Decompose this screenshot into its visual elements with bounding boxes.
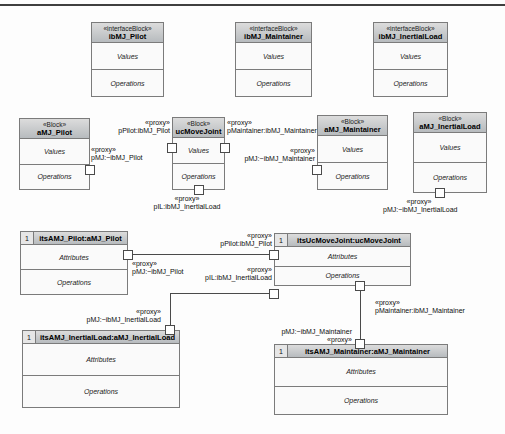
attributes-compartment: Attributes — [23, 344, 179, 376]
proxy-port-aMJ_Pilot-pMJ[interactable] — [85, 165, 95, 175]
block-stereotype: «Block» — [414, 115, 486, 122]
port-label-itsAMJ_InertialLoad-pMJ[interactable]: «proxy» pMJ:~ibMJ_InertialLoad — [80, 308, 161, 323]
block-header: «Block» aMJ_InertialLoad — [414, 113, 486, 133]
port-label-ucMoveJoint-pMaintainer[interactable]: «proxy» pMaintainer:ibMJ_Maintainer — [227, 119, 317, 134]
proxy-port-itsAMJ_InertialLoad-pMJ[interactable] — [165, 325, 175, 335]
operations-compartment: Operations — [275, 387, 447, 415]
connector-inertialload-horizontal[interactable] — [170, 293, 270, 294]
connector-inertialload-vertical[interactable] — [170, 293, 171, 326]
block-header: «Block» aMJ_Maintainer — [318, 116, 387, 136]
proxy-port-ucMoveJoint-pMaintainer[interactable] — [220, 143, 230, 153]
interface-block-ibMJ_Maintainer[interactable]: «interfaceBlock» ibMJ_Maintainer Values … — [235, 22, 312, 97]
operations-compartment: Operations — [414, 163, 486, 192]
instance-name: itsAMJ_Pilot:aMJ_Pilot — [34, 232, 127, 244]
instance-itsUcMoveJoint[interactable]: 1 itsUcMoveJoint:ucMoveJoint Attributes … — [274, 233, 411, 286]
block-name: aMJ_Pilot — [20, 128, 89, 137]
values-compartment: Values — [414, 133, 486, 163]
block-name: ucMoveJoint — [173, 127, 224, 136]
multiplicity-badge: 1 — [21, 232, 34, 244]
block-header: «interfaceBlock» ibMJ_Pilot — [92, 23, 163, 43]
port-label-aMJ_Maintainer-pMJ[interactable]: «proxy» pMJ:~ibMJ_Maintainer — [235, 147, 315, 162]
multiplicity-badge: 1 — [275, 345, 288, 357]
block-stereotype: «interfaceBlock» — [236, 25, 311, 32]
block-header: «interfaceBlock» ibMJ_InertialLoad — [374, 23, 447, 43]
instance-name: itsUcMoveJoint:ucMoveJoint — [288, 234, 410, 246]
block-name: aMJ_Maintainer — [318, 125, 387, 134]
instance-title-bar: 1 itsAMJ_Pilot:aMJ_Pilot — [21, 232, 127, 245]
proxy-port-itsAMJ_Pilot-pMJ[interactable] — [123, 250, 133, 260]
proxy-port-aMJ_InertialLoad-pMJ[interactable] — [435, 188, 445, 198]
instance-itsAMJ_Pilot[interactable]: 1 itsAMJ_Pilot:aMJ_Pilot Attributes Oper… — [20, 231, 128, 295]
block-name: ibMJ_InertialLoad — [374, 32, 447, 41]
port-label-aMJ_Pilot-pMJ[interactable]: «proxy» pMJ:~ibMJ_Pilot — [91, 146, 143, 161]
block-stereotype: «Block» — [20, 121, 89, 128]
proxy-port-itsUcMoveJoint-pPilot[interactable] — [269, 250, 279, 260]
values-compartment: Values — [173, 138, 224, 164]
attributes-compartment: Attributes — [21, 245, 127, 270]
port-label-itsAMJ_Maintainer-pMJ[interactable]: pMJ:~ibMJ_Maintainer «proxy» — [275, 328, 352, 343]
block-stereotype: «Block» — [318, 118, 387, 125]
block-aMJ_Pilot[interactable]: «Block» aMJ_Pilot Values Operations — [19, 118, 90, 190]
block-header: «Block» ucMoveJoint — [173, 118, 224, 138]
instance-name: itsAMJ_InertialLoad:aMJ_InertialLoad — [36, 331, 179, 343]
instance-itsAMJ_InertialLoad[interactable]: 1 itsAMJ_InertialLoad:aMJ_InertialLoad A… — [22, 330, 180, 408]
operations-compartment: Operations — [20, 165, 89, 190]
operations-compartment: Operations — [318, 163, 387, 189]
values-compartment: Values — [318, 136, 387, 163]
port-label-aMJ_InertialLoad-pMJ[interactable]: «proxy» pMJ:~ibMJ_InertialLoad — [383, 198, 455, 213]
diagram-top-rule — [0, 4, 505, 6]
operations-compartment: Operations — [23, 376, 179, 407]
operations-compartment: Operations — [374, 70, 447, 96]
operations-compartment: Operations — [275, 267, 410, 286]
proxy-port-aMJ_Maintainer-pMJ[interactable] — [312, 165, 322, 175]
port-label-itsUcMoveJoint-pPilot[interactable]: «proxy» pPilot:ibMJ_Pilot — [200, 232, 272, 247]
multiplicity-badge: 1 — [23, 331, 36, 343]
values-compartment: Values — [92, 43, 163, 70]
operations-compartment: Operations — [236, 70, 311, 96]
instance-title-bar: 1 itsAMJ_InertialLoad:aMJ_InertialLoad — [23, 331, 179, 344]
interface-block-ibMJ_Pilot[interactable]: «interfaceBlock» ibMJ_Pilot Values Opera… — [91, 22, 164, 97]
operations-compartment: Operations — [21, 270, 127, 294]
block-name: aMJ_InertialLoad — [414, 122, 486, 131]
instance-name: itsAMJ_Maintainer:aMJ_Maintainer — [288, 345, 447, 357]
multiplicity-badge: 1 — [275, 234, 288, 246]
block-stereotype: «interfaceBlock» — [374, 25, 447, 32]
block-name: ibMJ_Maintainer — [236, 32, 311, 41]
connector-maintainer-vertical[interactable] — [360, 290, 361, 340]
proxy-port-itsUcMoveJoint-pIL[interactable] — [269, 289, 279, 299]
connector-pilot-to-ucmovejoint[interactable] — [131, 254, 270, 255]
block-stereotype: «Block» — [173, 120, 224, 127]
block-ucMoveJoint[interactable]: «Block» ucMoveJoint Values Operations — [172, 117, 225, 190]
attributes-compartment: Attributes — [275, 358, 447, 387]
operations-compartment: Operations — [92, 70, 163, 96]
port-label-ucMoveJoint-pIL[interactable]: «proxy» pIL:ibMJ_InertialLoad — [150, 195, 224, 210]
port-label-itsUcMoveJoint-pIL[interactable]: «proxy» pIL:ibMJ_InertialLoad — [195, 266, 272, 281]
attributes-compartment: Attributes — [275, 247, 410, 267]
block-aMJ_InertialLoad[interactable]: «Block» aMJ_InertialLoad Values Operatio… — [413, 112, 487, 193]
proxy-port-ucMoveJoint-pPilot[interactable] — [167, 143, 177, 153]
values-compartment: Values — [20, 139, 89, 165]
block-name: ibMJ_Pilot — [92, 32, 163, 41]
instance-itsAMJ_Maintainer[interactable]: 1 itsAMJ_Maintainer:aMJ_Maintainer Attri… — [274, 344, 448, 415]
values-compartment: Values — [374, 43, 447, 70]
block-header: «Block» aMJ_Pilot — [20, 119, 89, 139]
proxy-port-itsAMJ_Maintainer-pMJ[interactable] — [355, 339, 365, 349]
block-stereotype: «interfaceBlock» — [92, 25, 163, 32]
block-header: «interfaceBlock» ibMJ_Maintainer — [236, 23, 311, 43]
port-label-itsUcMoveJoint-pMaintainer[interactable]: «proxy» pMaintainer:ibMJ_Maintainer — [375, 299, 465, 314]
bdd-diagram-canvas[interactable]: «interfaceBlock» ibMJ_Pilot Values Opera… — [0, 0, 505, 434]
values-compartment: Values — [236, 43, 311, 70]
proxy-port-itsUcMoveJoint-pMaintainer[interactable] — [355, 281, 365, 291]
interface-block-ibMJ_InertialLoad[interactable]: «interfaceBlock» ibMJ_InertialLoad Value… — [373, 22, 448, 97]
port-label-ucMoveJoint-pPilot[interactable]: «proxy» pPilot:ibMJ_Pilot — [100, 119, 170, 134]
block-aMJ_Maintainer[interactable]: «Block» aMJ_Maintainer Values Operations — [317, 115, 388, 190]
port-label-itsAMJ_Pilot-pMJ[interactable]: «proxy» pMJ:~ibMJ_Pilot — [132, 260, 184, 275]
proxy-port-ucMoveJoint-pIL[interactable] — [194, 185, 204, 195]
instance-title-bar: 1 itsUcMoveJoint:ucMoveJoint — [275, 234, 410, 247]
